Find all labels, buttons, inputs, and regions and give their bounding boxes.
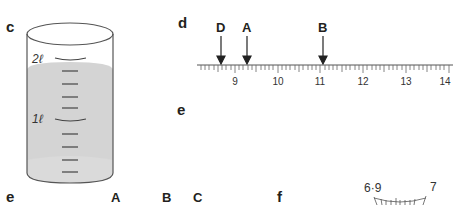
arrow-label-d: D <box>216 20 225 35</box>
tick-label-12: 12 <box>357 76 368 87</box>
dial-label-6-9: 6·9 <box>364 181 381 195</box>
panel-e-label-bottom: e <box>6 188 14 205</box>
volume-label-1l: 1ℓ <box>32 112 43 126</box>
tick-label-11: 11 <box>315 76 325 87</box>
letter-b: B <box>162 190 171 205</box>
measuring-cylinder <box>27 23 113 183</box>
arrow-label-b: B <box>318 20 327 35</box>
arrow-label-a: A <box>242 20 251 35</box>
diagram-graphics <box>0 0 453 205</box>
tick-label-14: 14 <box>439 76 450 87</box>
tick-label-10: 10 <box>272 76 283 87</box>
panel-e-label-mid: e <box>177 101 185 118</box>
panel-d-label: d <box>178 14 187 31</box>
letter-a: A <box>111 190 120 205</box>
panel-f-label: f <box>277 188 282 205</box>
number-line <box>197 36 453 73</box>
letter-c: C <box>193 190 202 205</box>
dial-label-7: 7 <box>430 180 437 194</box>
tick-label-13: 13 <box>400 76 411 87</box>
tick-label-9: 9 <box>232 76 238 87</box>
dial-scale <box>374 196 426 205</box>
volume-label-2l: 2ℓ <box>32 52 43 66</box>
